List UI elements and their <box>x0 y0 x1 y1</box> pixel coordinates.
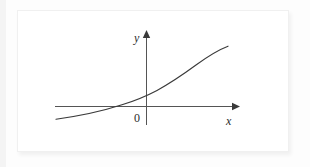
origin-label: 0 <box>134 111 140 125</box>
x-axis-label: x <box>225 114 232 128</box>
x-axis-arrowhead <box>232 103 240 110</box>
exponential-curve <box>56 46 228 119</box>
plot-svg: y x 0 <box>0 0 310 167</box>
coordinate-plot: y x 0 <box>0 0 310 167</box>
figure-root: y x 0 <box>0 0 310 167</box>
y-axis-arrowhead <box>143 30 150 38</box>
y-axis-label: y <box>133 31 140 45</box>
